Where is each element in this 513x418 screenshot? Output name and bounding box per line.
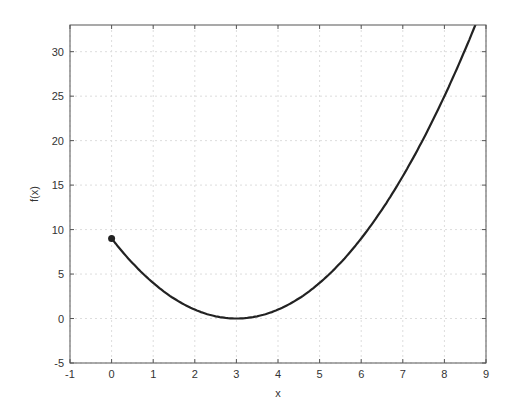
- plot-area: [108, 0, 486, 319]
- x-axis-ticks: -10123456789: [65, 25, 489, 380]
- x-axis-label: x: [275, 387, 281, 399]
- y-tick-label: 30: [52, 46, 64, 58]
- x-tick-label: 7: [400, 368, 406, 380]
- y-tick-label: 0: [58, 313, 64, 325]
- y-tick-label: 15: [52, 179, 64, 191]
- chart-canvas: -10123456789 -5051015202530 x f(x): [0, 0, 513, 418]
- y-tick-label: 20: [52, 135, 64, 147]
- x-tick-label: 1: [150, 368, 156, 380]
- y-tick-label: 10: [52, 224, 64, 236]
- x-tick-label: 3: [233, 368, 239, 380]
- x-tick-label: 9: [483, 368, 489, 380]
- x-tick-label: 2: [192, 368, 198, 380]
- y-axis-label: f(x): [28, 186, 40, 202]
- x-tick-label: 5: [317, 368, 323, 380]
- grid-lines: [70, 25, 486, 363]
- start-point-marker: [108, 235, 115, 242]
- data-series-line: [112, 0, 486, 319]
- y-axis-ticks: -5051015202530: [52, 46, 486, 369]
- x-tick-label: 6: [358, 368, 364, 380]
- x-tick-label: 0: [109, 368, 115, 380]
- y-tick-label: 25: [52, 90, 64, 102]
- x-tick-label: -1: [65, 368, 75, 380]
- y-tick-label: 5: [58, 268, 64, 280]
- x-tick-label: 8: [441, 368, 447, 380]
- y-tick-label: -5: [54, 357, 64, 369]
- x-tick-label: 4: [275, 368, 281, 380]
